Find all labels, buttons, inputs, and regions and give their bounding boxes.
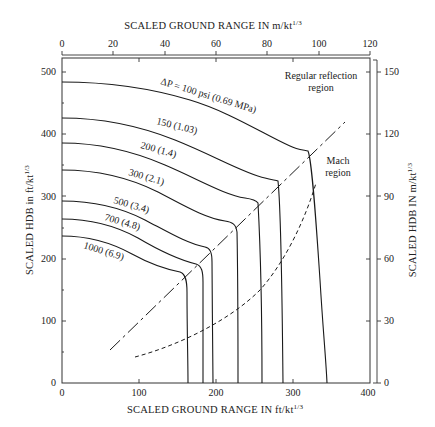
chart-canvas: SCALED GROUND RANGE IN m/kt1/3 0 20 40 6… [0, 0, 435, 427]
left-tick-300: 300 [41, 191, 56, 202]
right-tick-0: 0 [384, 377, 389, 388]
bottom-axis-ticks: 0 100 200 300 400 [60, 387, 376, 398]
mach-region-label-line2: region [325, 167, 351, 178]
region-annotations: Regular reflection region Mach region [285, 70, 357, 178]
mach-boundary-line [135, 183, 316, 357]
top-axis-line [62, 51, 370, 55]
left-tick-0: 0 [51, 377, 56, 388]
top-tick-80: 80 [262, 38, 272, 49]
top-axis-title: SCALED GROUND RANGE IN m/kt1/3 [124, 19, 302, 31]
right-axis-title: SCALED HDB IN m/kt1/3 [406, 163, 418, 278]
right-tick-150: 150 [384, 66, 399, 77]
right-tick-30: 30 [384, 315, 394, 326]
bottom-tick-200: 200 [209, 387, 224, 398]
label-500psi: 500 (3.4) [112, 194, 151, 216]
left-tick-500: 500 [41, 66, 56, 77]
left-axis-title: SCALED HDB in ft/kt1/3 [23, 165, 35, 275]
label-150psi: 150 (1.03) [155, 115, 198, 137]
left-tick-100: 100 [41, 315, 56, 326]
top-axis-ticks: 0 20 40 60 80 100 120 [60, 38, 378, 49]
top-tick-60: 60 [211, 38, 221, 49]
left-tick-200: 200 [41, 253, 56, 264]
top-tick-40: 40 [160, 38, 170, 49]
top-tick-0: 0 [60, 38, 65, 49]
bottom-tick-300: 300 [286, 387, 301, 398]
bottom-tick-100: 100 [132, 387, 147, 398]
top-tick-100: 100 [312, 38, 327, 49]
mach-region-label-line1: Mach [327, 155, 350, 166]
curve-labels: ΔP = 100 psi (0.69 MPa) 150 (1.03) 200 (… [82, 75, 258, 263]
label-1000psi: 1000 (6.9) [82, 239, 125, 263]
right-axis-line [373, 60, 381, 383]
regular-reflection-label-line2: region [308, 82, 334, 93]
curve-700psi [62, 219, 203, 383]
right-axis-ticks: 0 30 60 90 120 150 [384, 66, 399, 388]
bottom-axis-title: SCALED GROUND RANGE IN ft/kt1/3 [127, 403, 303, 415]
right-tick-60: 60 [384, 253, 394, 264]
right-tick-120: 120 [384, 128, 399, 139]
label-300psi: 300 (2.1) [127, 166, 166, 188]
regular-reflection-label-line1: Regular reflection [285, 70, 357, 81]
bottom-tick-0: 0 [60, 387, 65, 398]
bottom-tick-400: 400 [361, 387, 376, 398]
top-tick-120: 120 [363, 38, 378, 49]
left-tick-400: 400 [41, 128, 56, 139]
curve-1000psi [62, 236, 188, 383]
right-tick-90: 90 [384, 191, 394, 202]
left-axis-ticks: 0 100 200 300 400 500 [41, 66, 56, 388]
top-tick-20: 20 [108, 38, 118, 49]
label-700psi: 700 (4.8) [103, 211, 142, 233]
